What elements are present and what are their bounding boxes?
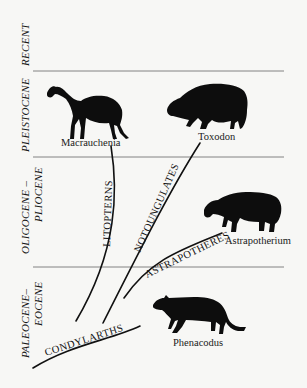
epoch-label-pleistocene: PLEISTOCENE xyxy=(19,78,31,153)
lineage-label-notoungulates: NOTOUNGULATES xyxy=(132,162,181,254)
taxon-label-astrapotherium: Astrapotherium xyxy=(225,235,291,246)
lineage-label-condylarths: CONDYLARTHS xyxy=(43,322,124,358)
epoch-label-eocene: EOCENE xyxy=(32,281,44,327)
taxon-label-macrauchenia: Macrauchenia xyxy=(61,137,121,148)
branch-notoungulates xyxy=(103,143,200,323)
epoch-label-pliocene: PLIOCENE xyxy=(32,167,44,223)
astrapotherium-silhouette xyxy=(204,192,281,232)
lineage-label-litopterns: LITOPTERNS xyxy=(101,180,114,247)
taxon-label-phenacodus: Phenacodus xyxy=(173,337,223,348)
epoch-label-recent: RECENT xyxy=(19,23,31,67)
taxon-label-toxodon: Toxodon xyxy=(198,131,236,142)
lineage-label-astrapotheres: ASTRAPOTHERES xyxy=(143,229,231,280)
diagram-canvas: RECENT PLEISTOCENE OLIGOCENE – PLIOCENE … xyxy=(0,0,307,388)
macrauchenia-silhouette xyxy=(47,86,129,139)
toxodon-silhouette xyxy=(167,84,248,129)
phenacodus-silhouette xyxy=(153,295,246,334)
evolution-diagram: RECENT PLEISTOCENE OLIGOCENE – PLIOCENE … xyxy=(0,0,307,388)
epoch-label-oligocene: OLIGOCENE – xyxy=(19,181,31,254)
epoch-label-paleocene: PALEOCENE– xyxy=(19,288,31,359)
